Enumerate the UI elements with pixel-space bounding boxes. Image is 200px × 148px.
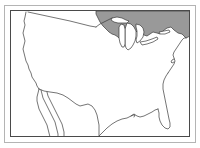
map-figure: Map of the contiguous United States [0, 0, 200, 148]
lake-michigan-shape [119, 24, 125, 47]
us-map-svg [0, 0, 200, 148]
